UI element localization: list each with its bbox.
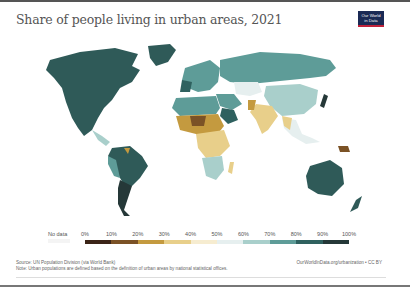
region-central-asia[interactable] bbox=[234, 82, 262, 96]
tick-70: 70% bbox=[264, 231, 275, 237]
region-western-europe[interactable] bbox=[180, 80, 192, 92]
region-russia[interactable] bbox=[220, 52, 336, 84]
region-madagascar[interactable] bbox=[228, 162, 234, 174]
bin-20-30[interactable] bbox=[138, 240, 164, 244]
region-new-zealand[interactable] bbox=[350, 196, 362, 212]
bottom-border bbox=[0, 285, 410, 287]
note-text: Note: Urban populations are defined base… bbox=[16, 266, 228, 271]
bin-80-90[interactable] bbox=[296, 240, 322, 244]
world-map[interactable] bbox=[20, 38, 390, 228]
tick-40: 40% bbox=[185, 231, 196, 237]
region-southern-africa[interactable] bbox=[202, 156, 224, 180]
bin-40-50[interactable] bbox=[191, 240, 217, 244]
region-greenland[interactable] bbox=[148, 44, 176, 66]
region-central-africa[interactable] bbox=[196, 130, 230, 158]
source-text: Source: UN Population Division (via Worl… bbox=[16, 260, 115, 265]
region-middle-east[interactable] bbox=[216, 94, 242, 110]
region-japan[interactable] bbox=[320, 94, 328, 108]
bin-0-10[interactable] bbox=[85, 240, 111, 244]
tick-20: 20% bbox=[132, 231, 143, 237]
tick-80: 80% bbox=[291, 231, 302, 237]
tick-0: 0% bbox=[81, 231, 89, 237]
region-north-africa[interactable] bbox=[172, 96, 220, 116]
chart-title: Share of people living in urban areas, 2… bbox=[16, 12, 282, 27]
region-saudi-arabia[interactable] bbox=[220, 108, 238, 124]
tick-30: 30% bbox=[159, 231, 170, 237]
bin-90-100[interactable] bbox=[323, 240, 349, 244]
tick-60: 60% bbox=[238, 231, 249, 237]
no-data-swatch[interactable] bbox=[48, 239, 70, 243]
bin-50-60[interactable] bbox=[217, 240, 243, 244]
region-australia[interactable] bbox=[306, 160, 344, 196]
footer-divider bbox=[16, 277, 386, 278]
bin-70-80[interactable] bbox=[270, 240, 296, 244]
source-link[interactable]: OurWorldInData.org/urbanization • CC BY bbox=[296, 260, 382, 265]
bin-10-20[interactable] bbox=[111, 240, 137, 244]
region-southern-cone[interactable] bbox=[118, 180, 132, 216]
legend-color-bar bbox=[85, 240, 349, 244]
tick-10: 10% bbox=[106, 231, 117, 237]
tick-100: 100% bbox=[342, 231, 356, 237]
tick-90: 90% bbox=[317, 231, 328, 237]
region-central-america[interactable] bbox=[92, 130, 110, 146]
region-papua-new-guinea[interactable] bbox=[338, 146, 350, 152]
top-border bbox=[0, 0, 410, 2]
region-niger-chad[interactable] bbox=[190, 116, 206, 126]
bin-30-40[interactable] bbox=[164, 240, 190, 244]
tick-50: 50% bbox=[211, 231, 222, 237]
legend-ticks: 0% 10% 20% 30% 40% 50% 60% 70% 80% 90% 1… bbox=[79, 231, 355, 239]
logo-line2: in Data bbox=[358, 18, 384, 23]
owid-logo[interactable]: Our World in Data bbox=[358, 11, 384, 27]
region-north-america[interactable] bbox=[46, 48, 140, 136]
no-data-label: No data bbox=[48, 231, 67, 237]
color-legend: No data 0% 10% 20% 30% 40% 50% 60% 70% 8… bbox=[48, 231, 368, 251]
bin-60-70[interactable] bbox=[243, 240, 269, 244]
